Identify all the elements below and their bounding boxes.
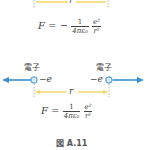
left-force-arrow xyxy=(2,77,31,83)
fraction-constant: 1 4πε₀ xyxy=(63,103,81,120)
right-electron-icon xyxy=(106,77,112,83)
right-electron-charge: −e xyxy=(90,74,103,84)
top-coulomb-formula: F = − 1 4πε₀ e² r² xyxy=(38,18,101,35)
bottom-coulomb-formula: F = 1 4πε₀ e² r² xyxy=(41,103,92,120)
fraction-constant: 1 4πε₀ xyxy=(71,18,89,35)
fraction-charge-distance: e² r² xyxy=(92,18,101,35)
left-electron-icon xyxy=(31,77,37,83)
repulsion-diagram xyxy=(0,60,150,100)
bottom-distance-label: r xyxy=(69,86,73,96)
top-distance-arrow xyxy=(0,0,150,10)
formula-lhs: F = − xyxy=(38,20,68,31)
left-electron-charge: −e xyxy=(39,74,52,84)
figure-caption: 図 A.11 xyxy=(56,137,87,148)
fraction-charge-distance: e² r² xyxy=(84,103,93,120)
formula-lhs: F = xyxy=(41,105,60,116)
top-distance-label: r xyxy=(69,0,73,5)
right-force-arrow xyxy=(113,77,144,83)
